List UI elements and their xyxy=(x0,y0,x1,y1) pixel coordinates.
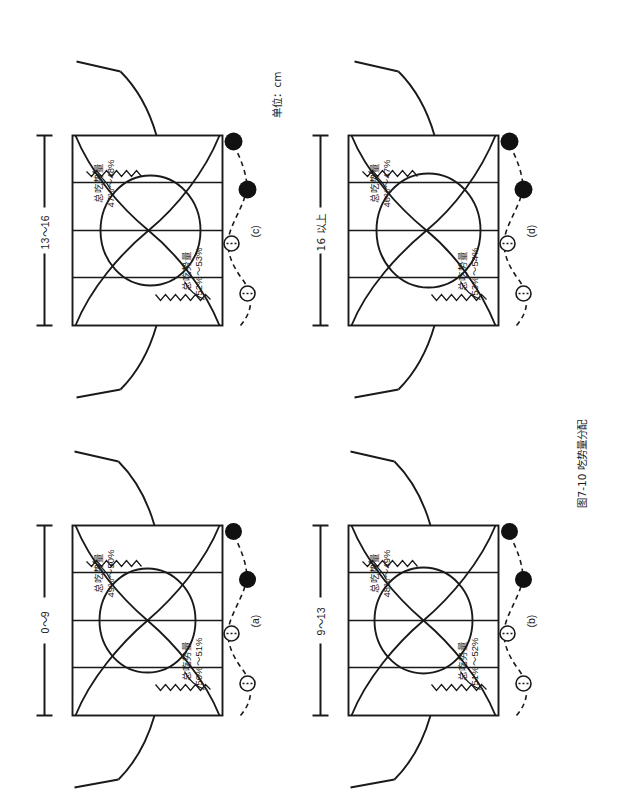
panel-d-letter: (d) xyxy=(524,224,536,237)
panel-d-bottom-ease-label: 总吃势量 53%～54% xyxy=(456,247,480,295)
panel-b-top-ease-term: 总吃势量 xyxy=(368,549,380,597)
panel-a-top-ease-term: 总吃势量 xyxy=(92,549,104,597)
panel-c-bottom-ease-value: 52%～53% xyxy=(192,247,204,295)
panel-d: 16 以上 总吃势量 46%～47% 总吃势量 53%～54% (d) xyxy=(290,48,540,403)
filled-circle-marker xyxy=(225,523,242,540)
panel-c-top-ease-term: 总吃势量 xyxy=(92,159,104,207)
filled-circle-marker xyxy=(515,571,532,588)
panel-b-drawing xyxy=(290,438,540,793)
panel-b-bottom-ease-value: 51%～52% xyxy=(468,637,480,685)
panel-b: 9～13 总吃势量 48%～49% 总吃势量 51%～52% (b) xyxy=(290,438,540,793)
panel-c-bottom-ease-term: 总吃势量 xyxy=(180,247,192,295)
panel-d-top-ease-label: 总吃势量 46%～47% xyxy=(368,159,392,207)
panel-c: 13～16 总吃势量 47%～48% 总吃势量 52%～53% (c) xyxy=(14,48,264,403)
panel-b-bottom-ease-term: 总吃势量 xyxy=(456,637,468,685)
panel-c-drawing xyxy=(14,48,264,403)
panel-a: 0～9 总吃势量 49%～50% 总吃势量 50%～51% (a) xyxy=(14,438,264,793)
panel-c-letter: (c) xyxy=(248,225,260,237)
filled-circle-marker xyxy=(500,132,518,150)
panel-b-top-ease-label: 总吃势量 48%～49% xyxy=(368,549,392,597)
panel-d-bottom-ease-value: 53%～54% xyxy=(468,247,480,295)
panel-c-top-ease-value: 47%～48% xyxy=(104,159,116,207)
filled-circle-marker xyxy=(238,180,256,198)
panel-a-top-ease-label: 总吃势量 49%～50% xyxy=(92,549,116,597)
figure-plate: 0～9 总吃势量 49%～50% 总吃势量 50%～51% (a) xyxy=(0,0,617,807)
panel-b-dimension-label: 9～13 xyxy=(312,607,327,635)
panel-b-top-ease-value: 48%～49% xyxy=(380,549,392,597)
panel-d-drawing xyxy=(290,48,540,403)
panel-b-bottom-ease-label: 总吃势量 51%～52% xyxy=(456,637,480,685)
panel-a-bottom-ease-value: 50%～51% xyxy=(192,637,204,685)
panel-a-letter: (a) xyxy=(248,614,260,627)
panel-d-bottom-ease-term: 总吃势量 xyxy=(456,247,468,295)
filled-circle-marker xyxy=(224,132,242,150)
unit-note: 单位：cm xyxy=(268,71,283,117)
panel-a-top-ease-value: 49%～50% xyxy=(104,549,116,597)
panel-c-top-ease-label: 总吃势量 47%～48% xyxy=(92,159,116,207)
panel-b-letter: (b) xyxy=(524,614,536,627)
filled-circle-marker xyxy=(239,571,256,588)
filled-circle-marker xyxy=(501,523,518,540)
figure-caption: 图7-10 吃势量分配 xyxy=(573,420,588,507)
panel-a-bottom-ease-term: 总吃势量 xyxy=(180,637,192,685)
panel-a-dimension-label: 0～9 xyxy=(36,611,51,633)
panel-a-bottom-ease-label: 总吃势量 50%～51% xyxy=(180,637,204,685)
panel-a-drawing xyxy=(14,438,264,793)
panel-d-dimension-label: 16 以上 xyxy=(312,213,327,251)
filled-circle-marker xyxy=(514,180,532,198)
panel-c-bottom-ease-label: 总吃势量 52%～53% xyxy=(180,247,204,295)
panel-c-dimension-label: 13～16 xyxy=(36,215,51,249)
panel-d-top-ease-term: 总吃势量 xyxy=(368,159,380,207)
panel-d-top-ease-value: 46%～47% xyxy=(380,159,392,207)
